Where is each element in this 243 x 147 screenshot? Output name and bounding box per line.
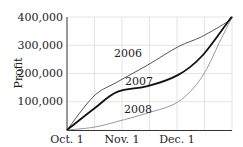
y-tick-100000: 100,000 [18,95,64,108]
x-tick-nov1: Nov. 1 [104,133,139,146]
y-tick-300000: 300,000 [18,39,64,52]
series-label-2006: 2006 [114,47,142,60]
series-label-2008: 2008 [124,103,152,116]
y-tick-400000: 400,000 [18,11,64,24]
series-label-2007: 2007 [125,75,153,88]
x-tick-labels: Oct. 1 Nov. 1 Dec. 1 [50,133,195,146]
x-tick-dec1: Dec. 1 [159,133,194,146]
x-tick-oct1: Oct. 1 [50,133,84,146]
profit-chart: 400,000 300,000 200,000 100,000 Oct. 1 N… [0,0,243,147]
y-axis-label: Profit [12,57,25,89]
